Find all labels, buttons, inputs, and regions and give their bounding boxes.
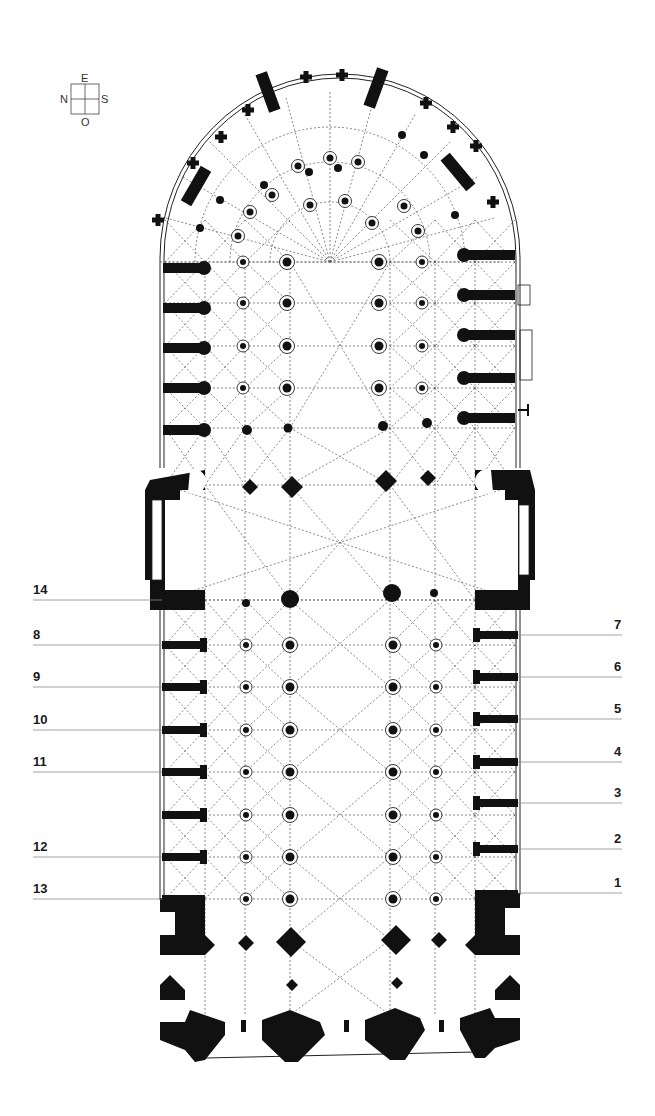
transept <box>145 469 535 610</box>
west-facade <box>160 893 520 1062</box>
bay-label-8: 8 <box>33 627 40 642</box>
bay-label-5: 5 <box>614 701 621 716</box>
bay-label-14: 14 <box>33 582 48 597</box>
bay-label-6: 6 <box>614 659 621 674</box>
compass-south: S <box>101 93 108 105</box>
bay-label-12: 12 <box>33 839 47 854</box>
bay-label-1: 1 <box>614 875 621 890</box>
bay-labels: 1489101112137654321 <box>33 582 622 899</box>
bay-label-10: 10 <box>33 712 47 727</box>
vault-lines <box>160 92 515 1015</box>
bay-label-3: 3 <box>614 785 621 800</box>
bay-label-9: 9 <box>33 669 40 684</box>
bay-label-11: 11 <box>33 754 47 769</box>
bay-label-4: 4 <box>614 744 622 759</box>
compass-icon: E N S O <box>60 72 108 128</box>
bay-label-7: 7 <box>614 617 621 632</box>
bay-label-13: 13 <box>33 881 47 896</box>
outer-walls <box>160 74 520 1058</box>
compass-west: O <box>81 116 90 128</box>
compass-east: E <box>81 72 88 84</box>
compass-north: N <box>60 93 68 105</box>
bay-label-2: 2 <box>614 831 621 846</box>
piers-and-buttresses <box>152 67 518 991</box>
floor-plan: E N S O <box>0 0 655 1116</box>
